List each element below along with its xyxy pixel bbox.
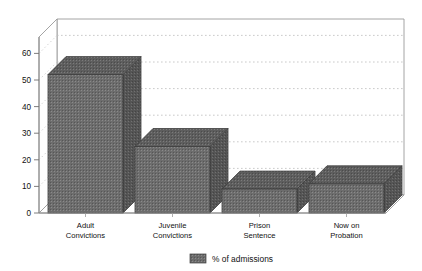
legend-label-admissions: % of admissions: [212, 254, 273, 264]
cat-label-4-line1: Now on: [334, 221, 360, 230]
ytick-label-0: 0: [26, 209, 31, 218]
chart-container: 0 10 20 30 40 50 60: [0, 0, 422, 271]
bar-adult-convictions[interactable]: [48, 57, 141, 213]
bar-juvenile-convictions[interactable]: [135, 129, 228, 214]
cat-label-1-line2: Convictions: [66, 231, 105, 240]
bar-front-face: [135, 147, 210, 214]
bar-prison-sentence[interactable]: [222, 171, 315, 213]
bar-chart-3d: 0 10 20 30 40 50 60: [0, 0, 422, 271]
ytick-label-40: 40: [22, 103, 32, 112]
bar-front-face: [309, 184, 384, 213]
ytick-label-50: 50: [22, 76, 32, 85]
bar-front-face: [48, 75, 123, 213]
bar-front-face: [222, 189, 297, 213]
legend: % of admissions: [190, 254, 273, 264]
cat-label-4-line2: Probation: [330, 231, 363, 240]
ytick-label-20: 20: [22, 156, 32, 165]
cat-label-2-line2: Convictions: [153, 231, 192, 240]
bar-now-on-probation[interactable]: [309, 166, 402, 213]
cat-label-3-line1: Prison: [249, 221, 271, 230]
ytick-label-30: 30: [22, 129, 32, 138]
ytick-label-60: 60: [22, 49, 32, 58]
cat-label-2-line1: Juvenile: [159, 221, 187, 230]
ytick-label-10: 10: [22, 182, 32, 191]
cat-label-3-line2: Sentence: [243, 231, 275, 240]
legend-swatch-admissions: [190, 254, 206, 263]
cat-label-1-line1: Adult: [77, 221, 95, 230]
